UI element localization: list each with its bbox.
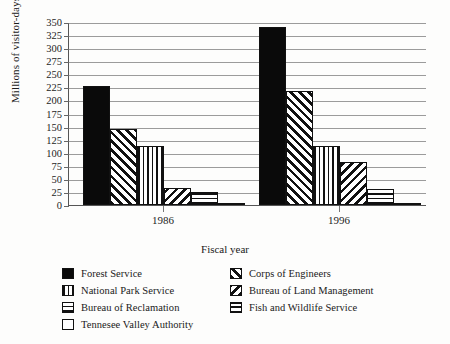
y-axis-tick: [64, 101, 69, 102]
y-axis-tick: [64, 115, 69, 116]
bar-1986-forest-service: [83, 86, 110, 205]
legend-item-national-park-service: National Park Service: [62, 282, 193, 299]
legend-item-label: Bureau of Reclamation: [81, 302, 179, 313]
legend-item-label: Tennesee Valley Authority: [81, 319, 193, 330]
y-axis-tick: [64, 75, 69, 76]
y-axis-tick: [64, 49, 69, 50]
bar-1996-national-park-service: [313, 146, 340, 205]
y-axis-tick-label: 350: [2, 18, 62, 28]
x-axis-tick: [339, 206, 340, 212]
y-axis-tick: [64, 167, 69, 168]
y-axis-tick: [64, 128, 69, 129]
bar-1986-national-park-service: [137, 146, 164, 205]
y-axis-tick-label: 0: [2, 201, 62, 211]
y-axis-tick-label: 25: [2, 188, 62, 198]
x-axis-tick-label: 1996: [309, 214, 369, 226]
y-axis-tick-label: 225: [2, 83, 62, 93]
y-axis-tick-labels: 3503253002752502252001751501251007550250: [0, 23, 62, 206]
y-axis-tick-label: 175: [2, 110, 62, 120]
legend-item-forest-service: Forest Service: [62, 265, 193, 282]
y-axis-tick-label: 325: [2, 31, 62, 41]
bar-1996-bureau-of-land-management: [340, 162, 367, 205]
y-axis-tick: [64, 88, 69, 89]
chart-page: Millions of visitor-days 350325300275250…: [0, 0, 450, 344]
legend-item-fish-and-wildlife-service: Fish and Wildlife Service: [230, 299, 374, 316]
y-axis-tick-label: 150: [2, 123, 62, 133]
y-axis-tick-label: 250: [2, 70, 62, 80]
x-axis-tick: [163, 206, 164, 212]
bar-1996-fish-and-wildlife-service: [394, 203, 421, 205]
legend-item-corps-of-engineers: Corps of Engineers: [230, 265, 374, 282]
legend-swatch-diagonal-icon: [230, 268, 242, 279]
legend-item-label: Corps of Engineers: [249, 268, 331, 279]
y-axis-tick: [64, 36, 69, 37]
bar-1986-corps-of-engineers: [110, 129, 137, 205]
bar-1996-forest-service: [259, 27, 286, 205]
y-axis-tick-label: 75: [2, 162, 62, 172]
legend-item-label: Bureau of Land Management: [249, 285, 374, 296]
bar-1996-bureau-of-reclamation: [367, 189, 394, 205]
y-axis-tick: [64, 23, 69, 24]
legend-item-bureau-of-land-management: Bureau of Land Management: [230, 282, 374, 299]
bar-1996-corps-of-engineers: [286, 91, 313, 206]
bar-1986-bureau-of-reclamation: [191, 192, 218, 205]
bar-group-1986: [83, 23, 245, 205]
plot-area: [68, 23, 426, 206]
legend-swatch-backdiagonal-icon: [230, 285, 242, 296]
bar-group-1996: [259, 23, 421, 205]
legend-column-right: Corps of EngineersBureau of Land Managem…: [230, 265, 374, 316]
legend-item-bureau-of-reclamation: Bureau of Reclamation: [62, 299, 193, 316]
bar-1986-fish-and-wildlife-service: [218, 203, 245, 205]
y-axis-tick-label: 125: [2, 136, 62, 146]
y-axis-tick: [64, 180, 69, 181]
legend-item-label: Forest Service: [81, 268, 142, 279]
y-axis-tick-label: 200: [2, 96, 62, 106]
legend-swatch-solid-icon: [62, 268, 74, 279]
legend-swatch-horizontal-icon: [62, 302, 74, 313]
x-axis-title: Fiscal year: [0, 243, 450, 255]
legend-swatch-crosshatch-icon: [230, 302, 242, 313]
y-axis-tick-label: 100: [2, 149, 62, 159]
legend-swatch-vertical-icon: [62, 285, 74, 296]
legend-swatch-empty-icon: [62, 319, 74, 330]
y-axis-tick-label: 300: [2, 44, 62, 54]
bar-1986-bureau-of-land-management: [164, 188, 191, 205]
legend-column-left: Forest ServiceNational Park ServiceBurea…: [62, 265, 193, 333]
legend-item-label: National Park Service: [81, 285, 174, 296]
y-axis-tick: [64, 154, 69, 155]
y-axis-tick: [64, 62, 69, 63]
legend-item-tennesee-valley-authority: Tennesee Valley Authority: [62, 316, 193, 333]
y-axis-tick-label: 275: [2, 57, 62, 67]
y-axis-tick: [64, 141, 69, 142]
y-axis-tick: [64, 193, 69, 194]
y-axis-tick-label: 50: [2, 175, 62, 185]
x-axis-tick-label: 1986: [133, 214, 193, 226]
legend-item-label: Fish and Wildlife Service: [249, 302, 357, 313]
y-axis-tick: [64, 206, 69, 207]
